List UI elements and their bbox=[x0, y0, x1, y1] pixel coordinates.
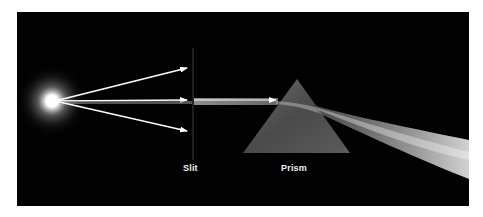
collimated-beam bbox=[194, 98, 278, 105]
prism-label: Prism bbox=[281, 163, 307, 173]
diagram-canvas bbox=[17, 12, 469, 206]
diagram-panel bbox=[17, 12, 469, 206]
arrow-middle-beam bbox=[60, 101, 192, 104]
slit-label: Slit bbox=[183, 163, 198, 173]
